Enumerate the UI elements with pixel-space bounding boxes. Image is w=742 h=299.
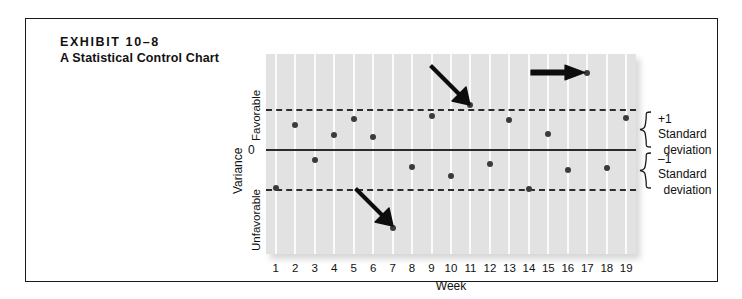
data-point-week-18	[604, 165, 610, 171]
data-point-week-19	[623, 115, 629, 121]
data-point-week-2	[292, 122, 298, 128]
x-axis-title: Week	[266, 279, 636, 293]
callout-arrow-week7	[353, 184, 409, 232]
y-axis-label-zero: 0	[248, 143, 255, 157]
chart-plot-area	[266, 54, 636, 254]
x-tick-19: 19	[615, 262, 637, 274]
gridline	[586, 54, 588, 254]
x-axis-tick-labels: 12345678910111213141516171819	[266, 262, 636, 278]
callout-arrow-week17	[529, 63, 591, 83]
data-point-week-16	[565, 167, 571, 173]
exhibit-title: A Statistical Control Chart	[60, 51, 219, 66]
gridline	[294, 54, 296, 254]
data-point-week-9	[429, 113, 435, 119]
data-point-week-1	[273, 185, 279, 191]
gridline	[275, 54, 277, 254]
data-point-week-10	[448, 173, 454, 179]
gridline	[489, 54, 491, 254]
upper-band-line1: +1 Standard	[658, 112, 717, 143]
exhibit-number: EXHIBIT 10–8	[60, 35, 219, 50]
gridline	[606, 54, 608, 254]
data-point-week-5	[351, 116, 357, 122]
exhibit-frame: EXHIBIT 10–8 A Statistical Control Chart…	[25, 18, 718, 282]
lower-control-limit-line	[266, 189, 636, 191]
gridline	[314, 54, 316, 254]
gridline	[528, 54, 530, 254]
gridline	[625, 54, 627, 254]
y-axis-label-favorable: Favorable	[250, 90, 262, 141]
data-point-week-13	[506, 117, 512, 123]
title-block: EXHIBIT 10–8 A Statistical Control Chart	[60, 35, 219, 67]
gridline	[567, 54, 569, 254]
data-point-week-3	[312, 157, 318, 163]
data-point-week-4	[331, 132, 337, 138]
gridline	[333, 54, 335, 254]
lower-band-line1: –1 Standard	[658, 152, 717, 183]
lower-band-annotation: –1 Standard deviation	[658, 152, 717, 198]
callout-arrow-week11	[426, 61, 486, 111]
data-point-week-15	[545, 131, 551, 137]
y-axis-title: Variance	[231, 148, 245, 194]
data-point-week-8	[409, 164, 415, 170]
data-point-week-6	[370, 134, 376, 140]
y-axis-label-unfavorable: Unfavorable	[250, 189, 262, 251]
data-point-week-12	[487, 161, 493, 167]
gridline	[411, 54, 413, 254]
gridline	[508, 54, 510, 254]
chart-plot-wrapper	[266, 54, 636, 254]
lower-band-line2: deviation	[658, 183, 717, 198]
center-line	[266, 149, 636, 151]
standard-deviation-braces	[638, 110, 654, 190]
data-point-week-14	[526, 186, 532, 192]
gridline	[547, 54, 549, 254]
